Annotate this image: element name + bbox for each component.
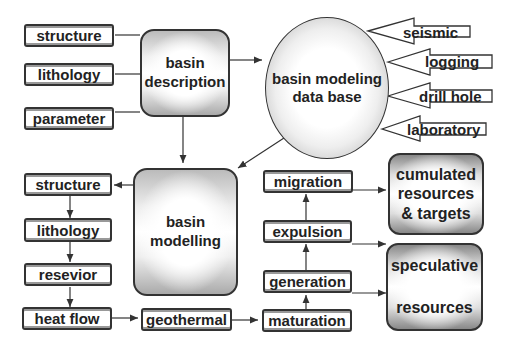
speculative-resources-box: speculative resources: [386, 243, 483, 331]
label: generation: [269, 274, 346, 289]
source-drill-hole: drill hole: [419, 89, 482, 104]
label: heat flow: [34, 311, 99, 326]
label: resevior: [39, 267, 97, 282]
input-structure: structure: [24, 24, 114, 47]
database-circle: basin modeling data base: [265, 17, 389, 159]
basin-modelling-box: basin modelling: [133, 168, 238, 296]
label: expulsion: [272, 224, 342, 239]
label: structure: [36, 28, 101, 43]
source-seismic: seismic: [403, 25, 458, 40]
model-structure: structure: [24, 173, 112, 196]
label: basin modeling data base: [272, 70, 382, 106]
maturation-box: maturation: [262, 309, 352, 332]
label-bottom: resources: [396, 298, 473, 317]
label: parameter: [33, 111, 106, 126]
label: basin modelling: [141, 213, 231, 251]
input-lithology: lithology: [24, 63, 114, 86]
expulsion-box: expulsion: [263, 220, 352, 243]
basin-description-box: basin description: [140, 29, 230, 117]
input-parameter: parameter: [24, 107, 114, 130]
source-laboratory: laboratory: [407, 122, 480, 137]
model-resevior: resevior: [24, 263, 112, 286]
label: migration: [274, 174, 342, 189]
label: lithology: [37, 223, 100, 238]
cumulated-resources-box: cumulated resources & targets: [388, 153, 484, 235]
label: structure: [35, 177, 100, 192]
label: maturation: [268, 313, 346, 328]
source-logging: logging: [425, 54, 479, 69]
model-lithology: lithology: [24, 218, 112, 242]
label: basin description: [142, 54, 228, 92]
geothermal-box: geothermal: [141, 308, 232, 331]
label: cumulated resources & targets: [393, 165, 479, 223]
label-top: speculative: [391, 256, 478, 275]
model-heat-flow: heat flow: [22, 307, 112, 330]
label: geothermal: [146, 312, 227, 327]
migration-box: migration: [263, 170, 353, 193]
generation-box: generation: [263, 270, 352, 293]
label: lithology: [38, 67, 101, 82]
